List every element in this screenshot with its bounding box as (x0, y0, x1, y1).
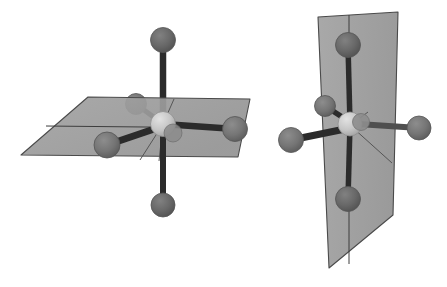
ligand-front-overlap (164, 124, 182, 142)
ligand-equatorial-front-left (94, 132, 120, 158)
ligand-axial-top (336, 33, 361, 58)
ligand-axial-top (151, 28, 176, 53)
ligand-equatorial-back-left (315, 96, 336, 117)
molecular-symmetry-figure (0, 0, 447, 287)
ligand-equatorial-right (407, 116, 431, 140)
ligand-axial-bottom (151, 193, 175, 217)
ligand-axial-bottom (336, 187, 361, 212)
ligand-front-overlap (353, 114, 370, 131)
ligand-equatorial-right (223, 117, 248, 142)
figure-root (0, 0, 447, 287)
ligand-equatorial-front-left (279, 128, 304, 153)
